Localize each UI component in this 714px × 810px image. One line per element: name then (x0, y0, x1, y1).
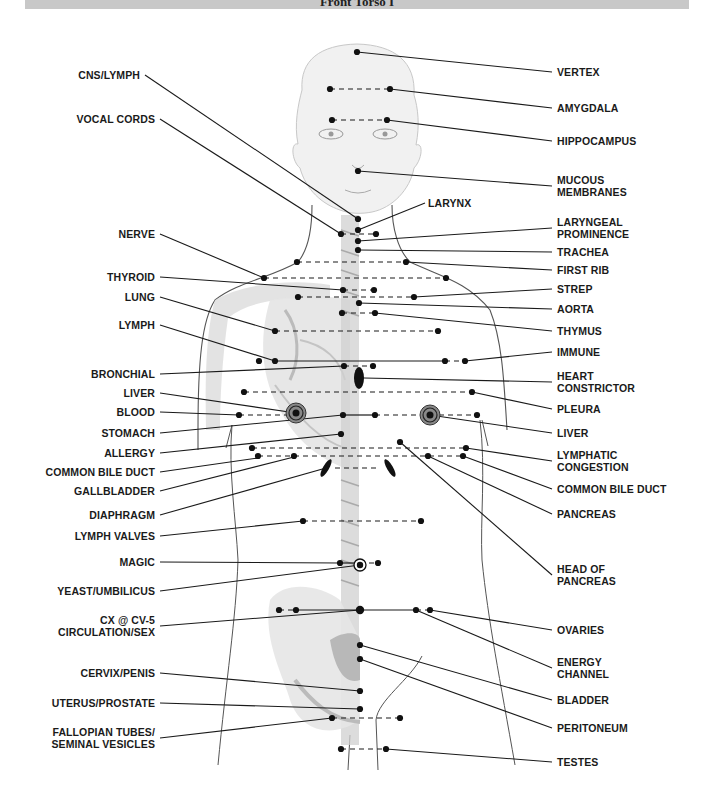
acupoint-dot (357, 656, 363, 662)
acupoint-dot (427, 607, 433, 613)
organ-marker (354, 367, 364, 389)
acupoint-dot (340, 287, 346, 293)
leader-line-yeast-umbilicus (160, 565, 360, 591)
acupoint-dot (341, 363, 347, 369)
label-lymph-valves: LYMPH VALVES (75, 530, 155, 543)
acupoint-dot (256, 358, 262, 364)
label-cns-lymph: CNS/LYMPH (78, 69, 140, 82)
label-peritoneum: PERITONEUM (557, 722, 628, 735)
leader-line-testes (386, 749, 552, 762)
label-cervix-penis: CERVIX/PENIS (80, 667, 155, 680)
acupoint-dot (276, 607, 282, 613)
leader-line-blood (160, 412, 239, 415)
label-hippocampus: HIPPOCAMPUS (557, 135, 636, 148)
leader-line-head-of-pancreas (400, 442, 552, 575)
label-lymph: LYMPH (119, 319, 155, 332)
label-yeast-umbilicus: YEAST/UMBILICUS (57, 585, 155, 598)
label-cx-cv5: CX @ CV-5 CIRCULATION/SEX (58, 614, 155, 639)
acupoint-dot (375, 560, 381, 566)
label-amygdala: AMYGDALA (557, 102, 618, 115)
label-trachea: TRACHEA (557, 246, 609, 259)
leader-line-magic (160, 562, 340, 563)
organ-marker (382, 458, 397, 478)
acupoint-dot (295, 294, 301, 300)
leader-line-heart-constrictor (364, 378, 552, 382)
acupoint-dot (236, 412, 242, 418)
acupoint-dot (357, 642, 363, 648)
acupoint-dot (372, 412, 378, 418)
acupoint-dot (443, 275, 449, 281)
acupoint-dot (261, 275, 267, 281)
label-testes: TESTES (557, 756, 598, 769)
acupoint-dot (442, 358, 448, 364)
label-common-bile-duct-right: COMMON BILE DUCT (557, 483, 667, 496)
acupoint-dot (337, 560, 343, 566)
leader-line-lymphatic-congestion (466, 448, 552, 461)
acupoint-dot (411, 294, 417, 300)
label-lung: LUNG (125, 291, 155, 304)
leader-line-nerve (160, 234, 264, 278)
center-point-dot (356, 606, 364, 614)
acupoint-dot (435, 328, 441, 334)
label-nerve: NERVE (119, 228, 156, 241)
acupoint-dot (329, 117, 335, 123)
acupoint-dot (418, 518, 424, 524)
acupoint-dot (474, 412, 480, 418)
leader-line-diaphragm (160, 468, 326, 515)
label-gallbladder: GALLBLADDER (74, 485, 155, 498)
acupoint-dot (355, 227, 361, 233)
label-strep: STREP (557, 283, 593, 296)
label-immune: IMMUNE (557, 346, 600, 359)
label-uterus-prostate: UTERUS/PROSTATE (52, 697, 155, 710)
label-heart-constrictor: HEART CONSTRICTOR (557, 370, 635, 395)
label-magic: MAGIC (120, 556, 156, 569)
label-fallopian: FALLOPIAN TUBES/ SEMINAL VESICLES (51, 726, 155, 751)
label-diaphragm: DIAPHRAGM (89, 509, 155, 522)
label-bronchial: BRONCHIAL (91, 368, 155, 381)
leader-line-common-bile-duct-right (463, 456, 552, 489)
acupoint-dot (355, 168, 361, 174)
acupoint-dot (403, 259, 409, 265)
leader-line-lymph-valves (160, 521, 303, 536)
label-mucous-membranes: MUCOUS MEMBRANES (557, 174, 627, 199)
label-stomach: STOMACH (101, 427, 155, 440)
label-head-of-pancreas: HEAD OF PANCREAS (557, 563, 616, 588)
leader-line-first-rib (406, 262, 552, 270)
label-bladder: BLADDER (557, 694, 609, 707)
label-aorta: AORTA (557, 303, 594, 316)
acupoint-dot (387, 86, 393, 92)
label-thyroid: THYROID (107, 271, 155, 284)
acupoint-dot (249, 445, 255, 451)
leader-line-laryngeal-prominence (358, 228, 552, 241)
acupoint-dot (291, 453, 297, 459)
acupoint-dot (294, 259, 300, 265)
label-vocal-cords: VOCAL CORDS (77, 113, 156, 126)
acupoint-dot (357, 688, 363, 694)
acupoint-dot (460, 453, 466, 459)
acupoint-dot (413, 607, 419, 613)
acupoint-dot (425, 453, 431, 459)
acupoint-dot (327, 86, 333, 92)
acupoint-dot (338, 431, 344, 437)
label-vertex: VERTEX (557, 66, 600, 79)
leader-line-pleura (472, 392, 552, 409)
leader-line-bladder (360, 645, 552, 700)
acupoint-dot (241, 389, 247, 395)
acupoint-dot (384, 117, 390, 123)
body-figure (198, 44, 515, 770)
acupoint-dot (300, 518, 306, 524)
acupoint-dot (357, 706, 363, 712)
acupoint-dot (469, 389, 475, 395)
acupoint-dot (329, 715, 335, 721)
acupoint-dot (370, 363, 376, 369)
label-liver-left: LIVER (124, 387, 155, 400)
acupoint-dot (462, 358, 468, 364)
organ-marker (318, 458, 333, 478)
leader-line-fallopian (160, 718, 332, 738)
acupoint-dot (255, 453, 261, 459)
acupoint-dot (293, 607, 299, 613)
leader-line-immune (465, 352, 552, 361)
acupoint-dot (272, 358, 278, 364)
label-allergy: ALLERGY (104, 447, 155, 460)
acupoint-dot (372, 310, 378, 316)
